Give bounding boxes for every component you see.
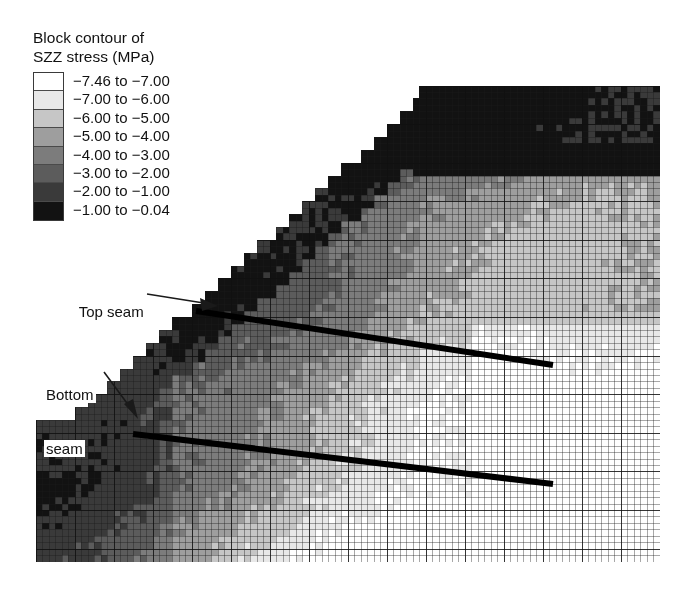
legend-label-3: −5.00 to −4.00 (73, 127, 170, 145)
legend-label-6: −2.00 to −1.00 (73, 182, 170, 200)
legend-label-5: −3.00 to −2.00 (73, 164, 170, 182)
legend-swatch-2 (34, 110, 63, 128)
legend-label-0: −7.46 to −7.00 (73, 72, 170, 90)
legend-swatch-4 (34, 147, 63, 165)
legend-label-7: −1.00 to −0.04 (73, 201, 170, 219)
legend-label-4: −4.00 to −3.00 (73, 146, 170, 164)
top-seam-label: Top seam (77, 303, 146, 320)
bottom-seam-label-line1: Bottom (44, 386, 96, 403)
legend-label-1: −7.00 to −6.00 (73, 90, 170, 108)
figure-container: Block contour of SZZ stress (MPa) −7.46 … (0, 0, 682, 594)
legend-swatch-7 (34, 202, 63, 220)
legend-title-line1: Block contour of (33, 28, 170, 47)
bottom-seam-label-line2: seam (44, 440, 85, 457)
legend-swatch-3 (34, 128, 63, 146)
legend-label-column: −7.46 to −7.00−7.00 to −6.00−6.00 to −5.… (73, 72, 170, 221)
legend-label-2: −6.00 to −5.00 (73, 109, 170, 127)
legend-swatch-1 (34, 91, 63, 109)
legend-swatch-column (33, 72, 64, 221)
legend-title-line2: SZZ stress (MPa) (33, 47, 170, 66)
legend-swatch-6 (34, 183, 63, 201)
legend-swatch-0 (34, 73, 63, 91)
bottom-seam-annotation: Bottom seam (44, 350, 96, 494)
legend-swatch-5 (34, 165, 63, 183)
top-seam-annotation: Top seam (60, 285, 146, 339)
legend: Block contour of SZZ stress (MPa) −7.46 … (33, 28, 170, 221)
